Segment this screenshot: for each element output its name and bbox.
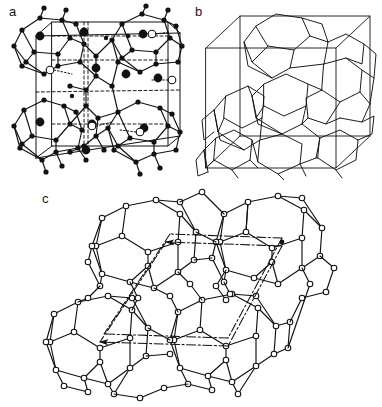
panel-a-label: a <box>9 5 16 18</box>
panel-b: b <box>190 0 382 180</box>
cage-c-lower-right <box>170 294 290 394</box>
guest-atom-filled <box>36 28 163 155</box>
cage-c-bridges <box>78 192 334 398</box>
framework-atoms-ur <box>109 3 184 74</box>
panel-c: c <box>30 188 360 407</box>
cage-right-lower <box>316 116 374 178</box>
cage-center <box>252 74 322 134</box>
framework-atoms-ll <box>11 97 88 174</box>
cage-middle-right <box>306 58 374 124</box>
axis-vector <box>100 234 282 346</box>
atoms-c-bridges <box>85 189 337 401</box>
guest-atom-open <box>46 30 176 136</box>
guest-leader <box>54 32 170 132</box>
panel-a: a <box>0 0 191 180</box>
panel-c-label: c <box>42 192 49 205</box>
panel-b-drawing <box>190 0 382 180</box>
panel-a-drawing <box>0 0 191 180</box>
figure-root: a <box>0 0 382 407</box>
axis-origin-dot <box>280 240 285 245</box>
cage-upper <box>244 14 328 78</box>
panel-c-drawing <box>30 188 360 407</box>
cage-top-right <box>328 34 376 78</box>
panel-b-label: b <box>195 5 202 18</box>
framework-atoms-lr <box>105 99 182 176</box>
unit-cell-edge <box>206 16 370 168</box>
cage-bottom-left <box>204 130 258 178</box>
